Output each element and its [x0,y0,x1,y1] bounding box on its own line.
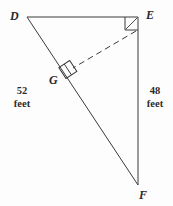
vertex-label-G: G [49,74,58,86]
geometry-figure: D E F G 52 feet 48 feet [0,0,173,206]
measure-label-right-side: 48 feet [142,84,168,110]
measure-value-52: 52 [7,84,37,97]
measure-value-48: 48 [142,84,168,97]
measure-unit-feet-left: feet [7,97,37,110]
measure-label-left-side: 52 feet [7,84,37,110]
vertex-label-F: F [139,189,147,201]
vertex-label-E: E [146,9,154,21]
right-angle-tick-at-E [126,18,137,29]
measure-unit-feet-right: feet [142,97,168,110]
segment-DF [27,17,138,185]
vertex-label-D: D [10,10,19,22]
segment-EG-dashed [73,31,136,68]
